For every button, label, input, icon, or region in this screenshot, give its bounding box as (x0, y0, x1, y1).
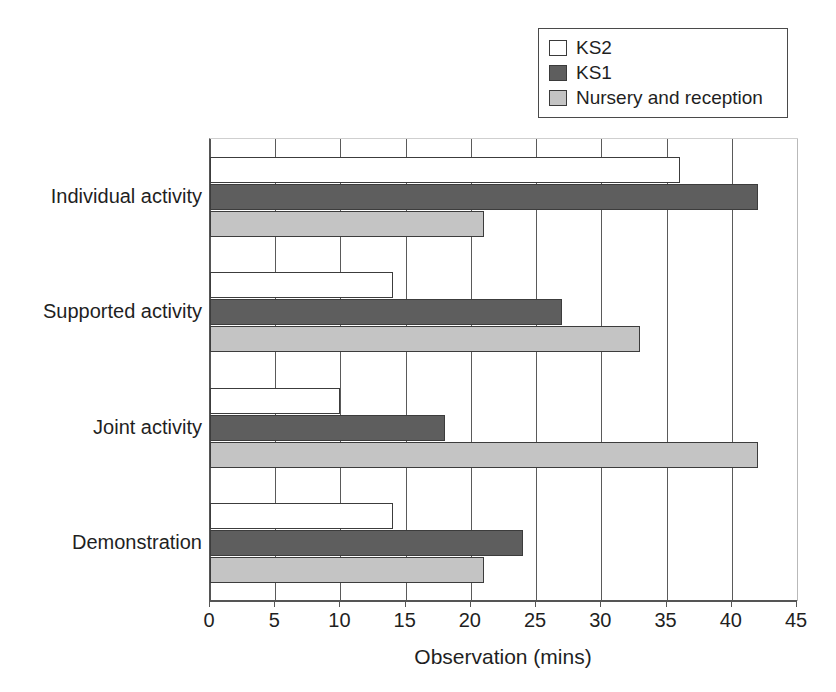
bar-chart: KS2 KS1 Nursery and reception Individual… (0, 0, 836, 692)
legend-label-nursery: Nursery and reception (576, 88, 763, 107)
x-tick-label: 15 (394, 609, 416, 631)
x-tick (535, 600, 536, 607)
legend-swatch-ks2 (549, 40, 567, 56)
x-tick (339, 600, 340, 607)
x-tick (470, 600, 471, 607)
x-axis-line (209, 600, 797, 602)
bar-ks1-demonstration (210, 530, 523, 556)
x-tick (600, 600, 601, 607)
category-axis-labels: Individual activitySupported activityJoi… (0, 0, 202, 692)
chart-legend: KS2 KS1 Nursery and reception (538, 28, 788, 118)
x-tick (731, 600, 732, 607)
x-tick (405, 600, 406, 607)
plot-area (209, 138, 798, 601)
bar-nursery-and-reception-individual-activity (210, 211, 484, 237)
x-tick-label: 40 (720, 609, 742, 631)
x-tick-label: 45 (785, 609, 807, 631)
x-tick-label: 30 (589, 609, 611, 631)
x-tick-label: 0 (203, 609, 214, 631)
bar-nursery-and-reception-demonstration (210, 557, 484, 583)
x-tick-label: 25 (524, 609, 546, 631)
legend-label-ks2: KS2 (576, 38, 612, 57)
bar-ks2-joint-activity (210, 388, 340, 414)
legend-item-ks2: KS2 (549, 35, 779, 60)
x-tick-label: 5 (269, 609, 280, 631)
legend-label-ks1: KS1 (576, 63, 612, 82)
bar-ks1-supported-activity (210, 299, 562, 325)
legend-item-ks1: KS1 (549, 60, 779, 85)
legend-item-nursery: Nursery and reception (549, 85, 779, 110)
category-label: Individual activity (6, 185, 202, 207)
bar-ks2-supported-activity (210, 272, 393, 298)
x-tick (274, 600, 275, 607)
category-label: Supported activity (6, 300, 202, 322)
x-axis-title: Observation (mins) (209, 645, 797, 669)
bar-ks1-individual-activity (210, 184, 758, 210)
bar-nursery-and-reception-joint-activity (210, 442, 758, 468)
category-label: Demonstration (6, 531, 202, 553)
x-tick (796, 600, 797, 607)
legend-swatch-nursery (549, 90, 567, 106)
x-tick (209, 600, 210, 607)
x-tick-label: 35 (654, 609, 676, 631)
x-tick-label: 10 (328, 609, 350, 631)
bar-ks2-demonstration (210, 503, 393, 529)
x-tick-label: 20 (459, 609, 481, 631)
bar-ks2-individual-activity (210, 157, 680, 183)
x-tick (666, 600, 667, 607)
bar-ks1-joint-activity (210, 415, 445, 441)
bar-nursery-and-reception-supported-activity (210, 326, 640, 352)
gridline (797, 139, 798, 601)
category-label: Joint activity (6, 416, 202, 438)
legend-swatch-ks1 (549, 65, 567, 81)
